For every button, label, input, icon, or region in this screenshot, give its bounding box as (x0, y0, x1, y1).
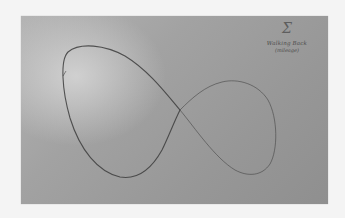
note-title: Walking Back (262, 40, 312, 47)
handwritten-note: Σ Walking Back (mileage) (262, 20, 312, 54)
photo-scene: Σ Walking Back (mileage) (0, 0, 345, 218)
note-subtitle: (mileage) (262, 47, 312, 54)
note-symbol: Σ (262, 20, 312, 36)
right-loop-curve (180, 81, 276, 175)
left-loop-curve (63, 46, 180, 178)
